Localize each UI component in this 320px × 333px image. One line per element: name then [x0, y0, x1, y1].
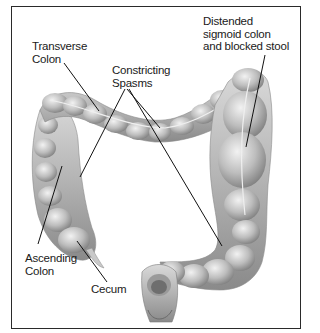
label-constricting-spasms: Constricting Spasms — [112, 64, 170, 89]
rectum-shape — [142, 265, 178, 323]
label-distended-sigmoid-colon: Distended sigmoid colon and blocked stoo… — [203, 15, 289, 53]
label-ascending-colon: Ascending Colon — [25, 252, 77, 277]
label-transverse-colon: Transverse Colon — [32, 40, 87, 65]
ascending-colon-shape — [32, 102, 104, 268]
label-cecum: Cecum — [91, 283, 126, 296]
